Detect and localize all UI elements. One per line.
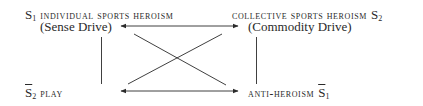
node-subscript: 2: [378, 14, 382, 23]
node-subscript: 1: [32, 14, 36, 23]
node-label: PLAY: [40, 87, 63, 99]
node-top-right-sublabel: (Commodity Drive): [248, 20, 352, 33]
node-subscript: 2: [32, 92, 36, 101]
diagonal-contradiction-line-2: [128, 34, 222, 84]
node-subscript: 1: [325, 92, 329, 101]
node-top-left-sublabel: (Sense Drive): [40, 20, 112, 33]
diagonal-contradiction-line-1: [134, 34, 226, 85]
node-bottom-left: S2 PLAY: [25, 84, 63, 101]
node-label: ANTI-HEROISM: [248, 87, 314, 99]
node-bottom-right: ANTI-HEROISM S1: [248, 84, 329, 101]
